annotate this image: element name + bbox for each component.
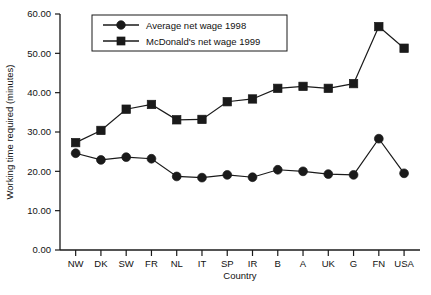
data-point [198, 115, 206, 123]
data-point [97, 126, 105, 134]
data-point [71, 149, 80, 158]
y-axis-title: Working time required (minutes) [4, 65, 15, 200]
data-point [223, 98, 231, 106]
x-tick-label-it: IT [198, 258, 207, 269]
data-point [299, 167, 308, 176]
legend-marker-square [117, 37, 125, 45]
x-tick-label-uk: UK [322, 258, 336, 269]
x-tick-label-g: G [350, 258, 357, 269]
x-tick-label-nl: NL [171, 258, 183, 269]
data-point [349, 79, 357, 87]
legend-label-series-1: McDonald's net wage 1999 [146, 36, 260, 47]
y-tick-label: 30.00 [27, 126, 51, 137]
y-tick-label: 60.00 [27, 8, 51, 19]
data-point [198, 173, 207, 182]
y-tick-label: 0.00 [33, 244, 52, 255]
line-chart: 0.0010.0020.0030.0040.0050.0060.00 NWDKS… [0, 0, 431, 295]
x-tick-label-fn: FN [372, 258, 385, 269]
data-point [374, 134, 383, 143]
data-point [349, 170, 358, 179]
data-point [122, 105, 130, 113]
data-point [248, 173, 257, 182]
x-tick-label-ir: IR [248, 258, 258, 269]
data-point [122, 153, 131, 162]
x-tick-label-nw: NW [68, 258, 84, 269]
data-point [324, 170, 333, 179]
legend-label-series-0: Average net wage 1998 [146, 20, 246, 31]
chart-legend: Average net wage 1998 McDonald's net wag… [92, 15, 287, 51]
x-tick-label-dk: DK [94, 258, 108, 269]
data-point [375, 22, 383, 30]
y-tick-label: 50.00 [27, 48, 51, 59]
x-tick-label-b: B [275, 258, 281, 269]
legend-marker-circle [117, 21, 126, 30]
data-point [274, 84, 282, 92]
x-tick-label-fr: FR [145, 258, 158, 269]
data-point [400, 44, 408, 52]
data-point [147, 154, 156, 163]
x-axis-title: Country [223, 270, 257, 281]
data-point [71, 138, 79, 146]
data-point [147, 100, 155, 108]
x-tick-label-sp: SP [221, 258, 234, 269]
x-tick-label-sw: SW [119, 258, 134, 269]
y-tick-label: 40.00 [27, 87, 51, 98]
series-0 [71, 134, 408, 182]
x-tick-label-a: A [300, 258, 307, 269]
data-point [173, 116, 181, 124]
y-tick-label: 10.00 [27, 205, 51, 216]
data-point [273, 165, 282, 174]
chart-container: 0.0010.0020.0030.0040.0050.0060.00 NWDKS… [0, 0, 431, 295]
x-axis-ticks: NWDKSWFRNLITSPIRBAUKGFNUSA [68, 250, 415, 269]
data-point [299, 82, 307, 90]
data-point [97, 156, 106, 165]
x-tick-label-usa: USA [394, 258, 414, 269]
data-point [400, 169, 409, 178]
y-axis-ticks: 0.0010.0020.0030.0040.0050.0060.00 [27, 8, 60, 255]
data-point [223, 170, 232, 179]
data-point [172, 172, 181, 181]
data-point [324, 84, 332, 92]
data-point [248, 95, 256, 103]
y-tick-label: 20.00 [27, 166, 51, 177]
